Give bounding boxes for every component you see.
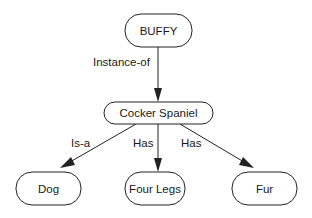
edge-instance-of: Instance-of [93, 47, 162, 102]
edge-label: Has [181, 137, 202, 149]
node-label: BUFFY [140, 25, 178, 37]
edge-has-legs: Has [133, 124, 162, 172]
node-buffy: BUFFY [125, 14, 192, 47]
semantic-network-diagram: Instance-of Is-a Has Has BUFFY Cocker Sp… [0, 0, 312, 218]
node-label: Cocker Spaniel [120, 107, 198, 119]
arrow-head-icon [154, 158, 162, 172]
edge-label: Instance-of [93, 56, 151, 68]
edge-has-fur: Has [180, 124, 254, 168]
edge-label: Has [133, 137, 154, 149]
node-label: Dog [38, 183, 59, 195]
node-fur: Fur [232, 172, 297, 205]
node-dog: Dog [16, 172, 81, 205]
arrow-head-icon [239, 157, 254, 168]
node-label: Fur [256, 183, 273, 195]
node-cocker-spaniel: Cocker Spaniel [104, 102, 213, 124]
edge-is-a: Is-a [60, 124, 136, 168]
node-four-legs: Four Legs [125, 172, 185, 205]
arrow-head-icon [60, 157, 75, 168]
node-label: Four Legs [129, 183, 181, 195]
arrow-head-icon [154, 88, 162, 102]
edge-label: Is-a [71, 137, 91, 149]
